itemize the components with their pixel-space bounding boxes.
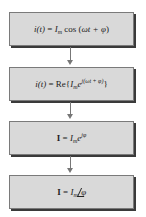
flow-box-phasor-polar: I = Imφ: [9, 175, 134, 209]
equals-re: = Re{: [46, 79, 70, 89]
angle-icon: φ: [77, 188, 88, 197]
exponent: jφ: [81, 132, 86, 138]
phase-angle: φ: [81, 188, 86, 196]
close-brace: }: [103, 79, 107, 89]
exponent: j(ωt + φ): [81, 78, 103, 84]
equals: =: [60, 133, 70, 143]
lhs: i(t): [34, 24, 45, 34]
close-paren: ): [106, 24, 109, 34]
equation-time-domain: i(t) = Im cos (ωt + φ): [34, 24, 109, 35]
arrow-down-icon: [67, 114, 73, 119]
arrow-line-1: [70, 47, 71, 61]
arrow-down-icon: [67, 60, 73, 65]
flow-box-real-part: i(t) = Re{Imej(ωt + φ)}: [9, 67, 134, 101]
equals: =: [61, 187, 71, 197]
argument: ωt + φ: [82, 24, 106, 34]
equation-real-part: i(t) = Re{Imej(ωt + φ)}: [35, 78, 108, 90]
cos-function: cos (: [62, 24, 82, 34]
lhs: i(t): [35, 79, 46, 89]
equals: =: [45, 24, 55, 34]
equation-phasor-polar: I = Imφ: [57, 187, 85, 198]
flow-box-phasor-exponential: I = Imejφ: [9, 121, 134, 155]
flow-box-time-domain: i(t) = Im cos (ωt + φ): [9, 12, 134, 46]
equation-phasor-exponential: I = Imejφ: [57, 132, 86, 144]
arrow-down-icon: [67, 168, 73, 173]
